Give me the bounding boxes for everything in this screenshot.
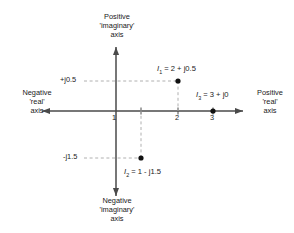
point-annotation-i3: I3 = 3 + j0 [196, 90, 229, 103]
axis-label-line-2: 'imaginary' [86, 205, 148, 214]
data-point-i2 [138, 155, 143, 160]
tick-label-real-3: 3 [210, 113, 214, 122]
point-value-i3: = 3 + j0 [201, 90, 228, 99]
point-annotation-i1: I1 = 2 + j0.5 [157, 64, 196, 77]
axis-label-positive-real: Positive 'real' axis [248, 88, 292, 116]
axis-label-negative-real: Negative 'real' axis [8, 88, 66, 116]
tick-label-imaginary-negative: -j1.5 [63, 152, 77, 161]
tick-label-real-1: 1 [112, 113, 116, 122]
tick-label-imaginary-positive: +j0.5 [60, 75, 76, 84]
axis-label-line-2: 'real' [8, 97, 66, 106]
point-value-i1: = 2 + j0.5 [162, 64, 196, 73]
axis-label-line-1: Negative [8, 88, 66, 97]
axis-label-positive-imaginary: Positive 'imaginary' axis [86, 12, 148, 40]
argand-diagram: Positive 'imaginary' axis Negative 'imag… [0, 0, 294, 233]
axis-label-negative-imaginary: Negative 'imaginary' axis [86, 196, 148, 224]
axis-label-line-3: axis [8, 106, 66, 115]
axis-label-line-2: 'real' [248, 97, 292, 106]
point-value-i2: = 1 - j1.5 [129, 167, 161, 176]
data-point-i1 [175, 78, 180, 83]
tick-label-real-2: 2 [175, 113, 179, 122]
axis-label-line-3: axis [248, 106, 292, 115]
axis-label-line-3: axis [86, 214, 148, 223]
axis-label-line-1: Negative [86, 196, 148, 205]
axis-label-line-2: 'imaginary' [86, 21, 148, 30]
point-annotation-i2: I2 = 1 - j1.5 [124, 167, 161, 180]
axis-label-line-3: axis [86, 30, 148, 39]
axis-label-line-1: Positive [248, 88, 292, 97]
axis-label-line-1: Positive [86, 12, 148, 21]
